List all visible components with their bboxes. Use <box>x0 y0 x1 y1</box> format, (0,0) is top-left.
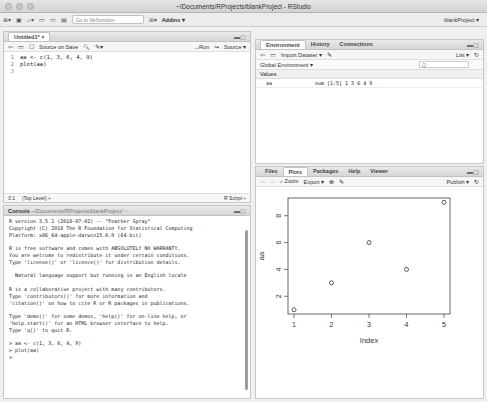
zoom-window-button[interactable] <box>27 3 34 10</box>
window-controls[interactable] <box>5 3 34 10</box>
window-title: ~/Documents/RProjects/blankProject - RSt… <box>176 3 311 10</box>
y-axis-label: aa <box>257 251 266 260</box>
addins-menu[interactable]: Addins ▾ <box>162 17 185 23</box>
refresh-icon[interactable]: ↻ <box>474 179 479 185</box>
environment-pane: Environment History Connections ▬▢ ⇦ ▭ I… <box>255 39 484 164</box>
next-plot-icon[interactable]: ⇨ <box>270 179 275 185</box>
source-button[interactable]: Source ▾ <box>224 44 246 50</box>
code-editor[interactable]: 1 2 3 aa <- c(1, 3, 6, 4, 9) plot(aa) <box>4 52 250 75</box>
tab-files[interactable]: Files <box>260 167 283 176</box>
close-window-button[interactable] <box>5 3 12 10</box>
x-tick-label: 5 <box>442 321 446 328</box>
data-point <box>442 200 446 204</box>
tab-packages[interactable]: Packages <box>308 167 343 176</box>
code-body[interactable]: aa <- c(1, 3, 6, 4, 9) plot(aa) <box>18 52 93 75</box>
list-view-button[interactable]: List ▾ <box>456 52 469 58</box>
plots-tabbar: Files Plots Packages Help Viewer ▬▢ <box>256 167 483 177</box>
editor-pane: Untitled1* × ▬▢ ⇦ ▭ ☐ Source on Save 🔍︎ … <box>3 31 251 203</box>
global-env-selector[interactable]: Global Environment ▾ <box>260 62 313 68</box>
publish-button[interactable]: Publish ▾ <box>446 179 469 185</box>
tab-viewer[interactable]: Viewer <box>365 167 393 176</box>
console-path[interactable]: ~/Documents/RProjects/blankProject/ <box>31 208 122 214</box>
tab-untitled1[interactable]: Untitled1* × <box>8 32 50 41</box>
var-value: num [1:5] 1 3 6 4 9 <box>315 80 372 86</box>
file-type-selector[interactable]: R Script ÷ <box>224 194 246 202</box>
save-workspace-icon[interactable]: ▭ <box>270 52 276 58</box>
y-tick-label: 8 <box>275 214 282 218</box>
zoom-button[interactable]: ⌕ Zoom <box>280 178 299 185</box>
refresh-icon[interactable]: ↻ <box>474 52 479 58</box>
print-icon[interactable]: ▤ <box>61 16 67 23</box>
data-point <box>292 308 296 312</box>
tab-connections[interactable]: Connections <box>335 40 378 49</box>
save-all-icon[interactable]: ▭ <box>50 16 56 23</box>
rerun-icon[interactable]: ↪ <box>214 44 219 50</box>
pane-minmax-icon[interactable]: ▬▢ <box>467 168 479 175</box>
editor-toolbar: ⇦ ▭ ☐ Source on Save 🔍︎ ✎▾ →Run ↪ Source… <box>4 42 250 52</box>
data-point <box>367 241 371 245</box>
code-line[interactable]: aa <- c(1, 3, 6, 4, 9) <box>20 54 93 61</box>
load-workspace-icon[interactable]: ⇦ <box>260 52 265 58</box>
editor-statusbar: 3:1 (Top Level) ÷ R Script ÷ <box>4 193 250 202</box>
minimize-window-button[interactable] <box>16 3 23 10</box>
env-search-input[interactable]: Q <box>419 61 469 68</box>
pane-minmax-icon[interactable]: ▬▢ <box>467 41 479 48</box>
y-tick-label: 4 <box>275 267 282 271</box>
save-icon[interactable]: ▭ <box>39 16 45 23</box>
project-menu[interactable]: blankProject ▾ <box>444 17 479 23</box>
plot-area: 123452468Indexaa <box>256 188 483 398</box>
open-file-icon[interactable]: ⌂▾ <box>27 16 34 23</box>
code-line[interactable]: plot(aa) <box>20 61 93 68</box>
line-number: 1 <box>4 54 14 61</box>
main-toolbar: ⊕▾ ▣ ⌂▾ ▭ ▭ ▤ Go to file/function ⊞▾ Add… <box>0 13 487 27</box>
path-arrow-icon[interactable]: ⇨ <box>122 208 129 214</box>
plots-toolbar: ⇦ ⇨ ⌕ Zoom Export ▾ ⊗ ✎ Publish ▾ ↻ <box>256 177 483 187</box>
console-tabbar: Console ~/Documents/RProjects/blankProje… <box>4 206 250 216</box>
prev-plot-icon[interactable]: ⇦ <box>260 179 265 185</box>
broom-icon[interactable]: ✎ <box>327 52 332 58</box>
tab-help[interactable]: Help <box>343 167 365 176</box>
remove-plot-icon[interactable]: ⊗ <box>329 179 334 185</box>
tab-environment[interactable]: Environment <box>260 40 306 49</box>
pane-minmax-icon[interactable]: ▬▢ <box>234 33 246 40</box>
x-tick-label: 3 <box>367 321 371 328</box>
workspace-panes-icon[interactable]: ⊞▾ <box>149 16 157 23</box>
code-line[interactable] <box>20 68 93 75</box>
save-icon[interactable]: ▭ <box>18 44 24 50</box>
values-header: Values <box>256 70 483 79</box>
console-output[interactable]: R version 3.5.1 (2018-07-02) -- "Feather… <box>4 216 250 363</box>
console-tab[interactable]: Console <box>8 208 30 214</box>
var-name: aa <box>260 80 315 86</box>
env-row[interactable]: aa num [1:5] 1 3 6 4 9 <box>256 79 483 88</box>
source-on-save-checkbox[interactable]: ☐ <box>29 44 34 50</box>
console-pane: Console ~/Documents/RProjects/blankProje… <box>3 205 251 399</box>
zoom-label: Zoom <box>285 178 299 184</box>
export-button[interactable]: Export ▾ <box>304 179 324 185</box>
goto-file-input[interactable]: Go to file/function <box>72 15 144 24</box>
line-number: 3 <box>4 68 14 75</box>
broom-icon[interactable]: ✎ <box>339 179 344 185</box>
wand-icon[interactable]: ✎▾ <box>95 44 103 50</box>
tab-plots[interactable]: Plots <box>283 167 308 176</box>
new-file-icon[interactable]: ⊕▾ <box>3 16 11 23</box>
environment-toolbar: ⇦ ▭ Import Dataset ▾ ✎ List ▾ ↻ <box>256 50 483 60</box>
x-axis-label: Index <box>360 336 379 345</box>
line-number: 2 <box>4 61 14 68</box>
source-on-save-label: Source on Save <box>39 44 78 50</box>
new-project-icon[interactable]: ▣ <box>16 16 22 23</box>
pane-minmax-icon[interactable]: ▬▢ <box>234 207 246 214</box>
environment-tabbar: Environment History Connections ▬▢ <box>256 40 483 50</box>
cursor-position: 3:1 <box>8 195 15 201</box>
data-point <box>405 267 409 271</box>
tab-history[interactable]: History <box>306 40 335 49</box>
console-scrollbar[interactable] <box>245 230 248 390</box>
scope-selector[interactable]: (Top Level) ÷ <box>22 195 51 201</box>
plot-frame <box>288 198 450 314</box>
line-gutter: 1 2 3 <box>4 52 18 75</box>
back-icon[interactable]: ⇦ <box>8 44 13 50</box>
environment-scope-bar: Global Environment ▾ Q <box>256 60 483 70</box>
search-icon[interactable]: 🔍︎ <box>83 44 90 50</box>
plots-pane: Files Plots Packages Help Viewer ▬▢ ⇦ ⇨ … <box>255 166 484 399</box>
import-dataset-button[interactable]: Import Dataset ▾ <box>281 52 322 58</box>
run-button[interactable]: →Run <box>193 44 209 50</box>
